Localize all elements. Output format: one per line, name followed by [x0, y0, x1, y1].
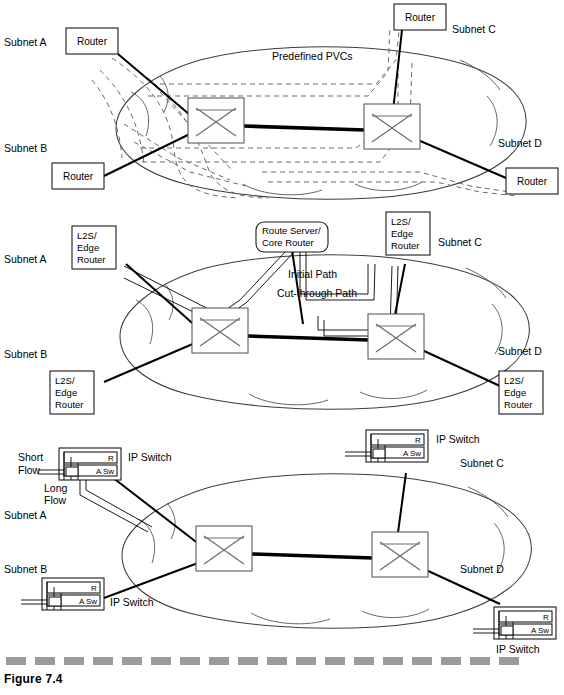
subnet-label-d-panel1: Subnet D [498, 137, 542, 149]
atm-cloud-outline-1 [116, 47, 526, 199]
router-box-subnet-d[interactable]: Router [506, 168, 558, 194]
ip-switch-subnet-a[interactable]: R A Sw IP Switch [38, 448, 172, 480]
atm-switch-left-panel1 [188, 98, 244, 143]
edge-router-line2: Edge [391, 228, 413, 239]
edge-router-line3: Router [391, 240, 420, 251]
subnet-label-c-panel3: Subnet C [460, 457, 504, 469]
subnet-label-a-panel3: Subnet A [4, 509, 47, 521]
ip-switch-router-tag: R [108, 454, 114, 463]
atm-switch-left-panel2 [192, 308, 248, 353]
ip-switch-atm-tag: A Sw [403, 449, 421, 458]
figure-caption: Figure 7.4 [4, 672, 63, 686]
edge-router-line3: Router [77, 254, 106, 265]
subnet-label-c-panel2: Subnet C [438, 236, 482, 248]
panel-ip-switching: R A Sw IP Switch R A Sw IP Switch [4, 430, 556, 655]
long-flow-label-line1: Long [44, 482, 68, 494]
route-server-line2: Core Router [262, 237, 314, 248]
ip-switch-router-tag: R [415, 436, 421, 445]
subnet-label-d-panel2: Subnet D [498, 345, 542, 357]
edge-router-box-subnet-b[interactable]: L2S/ Edge Router [50, 371, 94, 414]
edge-router-box-subnet-a[interactable]: L2S/ Edge Router [72, 226, 116, 269]
short-flow-label-line2: Flow [18, 464, 41, 476]
router-box-subnet-b[interactable]: Router [52, 163, 104, 189]
subnet-label-a-panel1: Subnet A [4, 36, 47, 48]
long-flow-label-line2: Flow [44, 494, 67, 506]
subnet-label-a-panel2: Subnet A [4, 253, 47, 265]
subnet-label-c-panel1: Subnet C [452, 23, 496, 35]
ip-switch-label: IP Switch [496, 643, 540, 655]
atm-cloud-outline-3 [122, 474, 531, 628]
edge-router-line3: Router [55, 399, 84, 410]
ip-switch-router-tag: R [91, 584, 97, 593]
panel-route-server: Route Server/ Core Router L2S/ Edge Rout… [4, 212, 543, 414]
ip-switch-atm-tag: A Sw [531, 626, 549, 635]
predefined-pvc-paths [92, 22, 518, 198]
edge-router-box-subnet-c[interactable]: L2S/ Edge Router [386, 212, 430, 255]
ip-switch-subnet-b[interactable]: R A Sw IP Switch [21, 578, 154, 610]
ip-switch-atm-tag: A Sw [96, 467, 114, 476]
router-box-subnet-c[interactable]: Router [394, 4, 446, 30]
router-box-label: Router [63, 171, 94, 182]
ip-switch-router-tag: R [543, 613, 549, 622]
ip-switch-label: IP Switch [436, 433, 480, 445]
edge-router-box-subnet-d[interactable]: L2S/ Edge Router [499, 371, 543, 414]
short-flow-label-line1: Short [18, 451, 43, 463]
initial-path-label: Initial Path [288, 268, 337, 280]
atm-switch-right-panel1 [364, 104, 420, 149]
ip-switch-label: IP Switch [128, 451, 172, 463]
core-links-panel3 [104, 473, 500, 604]
predefined-pvcs-label: Predefined PVCs [272, 50, 353, 62]
atm-switch-right-panel3 [372, 532, 428, 577]
network-diagram-svg: Router Router Router Router Subnet A Sub… [0, 0, 564, 695]
subnet-label-b-panel3: Subnet B [4, 563, 47, 575]
router-box-label: Router [517, 176, 548, 187]
route-server-line1: Route Server/ [262, 225, 321, 236]
subnet-label-b-panel1: Subnet B [4, 142, 47, 154]
atm-switch-left-panel3 [196, 526, 252, 571]
router-box-subnet-a[interactable]: Router [66, 28, 118, 54]
subnet-label-b-panel2: Subnet B [4, 348, 47, 360]
edge-router-line2: Edge [77, 242, 99, 253]
edge-router-line1: L2S/ [504, 375, 524, 386]
figure-divider-rule [6, 657, 558, 665]
edge-router-line1: L2S/ [55, 375, 75, 386]
router-box-label: Router [405, 12, 436, 23]
ip-switch-subnet-d[interactable]: R A Sw IP Switch [473, 607, 556, 655]
long-flow-lines [80, 478, 152, 532]
figure-7-4: Router Router Router Router Subnet A Sub… [0, 0, 564, 695]
edge-router-line2: Edge [55, 387, 77, 398]
subnet-label-d-panel3: Subnet D [460, 563, 504, 575]
cut-through-path-label: Cut-through Path [277, 287, 357, 299]
panel-predefined-pvcs: Router Router Router Router Subnet A Sub… [4, 4, 558, 199]
atm-switch-right-panel2 [368, 314, 424, 359]
edge-router-line1: L2S/ [391, 216, 411, 227]
ip-switch-atm-tag: A Sw [79, 597, 97, 606]
edge-router-line1: L2S/ [77, 230, 97, 241]
ip-switch-label: IP Switch [110, 596, 154, 608]
edge-router-line3: Router [504, 399, 533, 410]
cut-through-path-lines [124, 266, 398, 336]
edge-router-line2: Edge [504, 387, 526, 398]
router-box-label: Router [77, 36, 108, 47]
route-server-box[interactable]: Route Server/ Core Router [256, 222, 328, 252]
